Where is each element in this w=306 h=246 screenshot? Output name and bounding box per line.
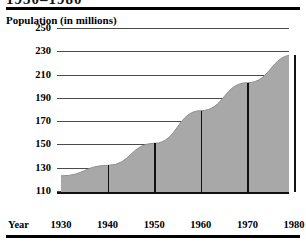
y-axis-tick-label: 250 bbox=[7, 23, 51, 34]
x-axis-name: Year bbox=[8, 219, 29, 230]
x-axis-tick bbox=[201, 111, 203, 192]
x-axis-tick-label: 1950 bbox=[144, 219, 165, 230]
x-axis-baseline bbox=[57, 192, 289, 194]
x-axis-tick-label: 1980 bbox=[284, 219, 305, 230]
population-area-chart bbox=[57, 24, 289, 192]
y-axis-tick-label: 170 bbox=[7, 116, 51, 127]
y-axis-tick-label: 190 bbox=[7, 93, 51, 104]
y-axis-tick-label: 210 bbox=[7, 69, 51, 80]
y-axis-tick-label: 110 bbox=[7, 186, 51, 197]
area-series-region bbox=[57, 24, 289, 192]
x-axis-tick bbox=[294, 55, 296, 192]
x-axis-tick-label: 1970 bbox=[237, 219, 258, 230]
x-axis-tick-label: 1960 bbox=[190, 219, 211, 230]
x-axis-tick-label: 1940 bbox=[97, 219, 118, 230]
bottom-rule bbox=[6, 235, 300, 238]
x-axis-tick bbox=[154, 143, 156, 192]
top-rule bbox=[6, 7, 300, 10]
y-axis-tick-label: 230 bbox=[7, 46, 51, 57]
y-axis-tick-label: 150 bbox=[7, 139, 51, 150]
x-axis-tick bbox=[108, 165, 110, 192]
x-axis-tick bbox=[247, 83, 249, 192]
x-axis-tick-label: 1930 bbox=[51, 219, 72, 230]
y-axis-tick-label: 130 bbox=[7, 162, 51, 173]
